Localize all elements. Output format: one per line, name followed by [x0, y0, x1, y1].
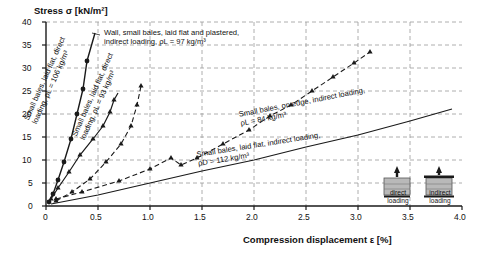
chart-figure: Stress σ [kN/m²] Compression displacemen…	[0, 0, 478, 277]
x-tick-0: 0	[43, 212, 48, 222]
x-tick-3-0: 3.0	[350, 212, 362, 222]
y-tick-40: 40	[22, 17, 31, 27]
x-tick-3-5: 3.5	[402, 212, 414, 222]
y-tick-5: 5	[28, 178, 33, 188]
legend-direct-line2: loading	[380, 197, 416, 205]
x-tick-4-0: 4.0	[454, 212, 466, 222]
legend-direct-line1: direct	[380, 189, 416, 197]
y-tick-0: 0	[28, 201, 33, 211]
x-tick-2-0: 2.0	[246, 212, 258, 222]
y-tick-15: 15	[22, 132, 31, 142]
x-tick-1-5: 1.5	[194, 212, 206, 222]
legend-indirect-line1: indirect	[422, 189, 458, 197]
legend-indirect-line2: loading	[422, 197, 458, 205]
y-tick-25: 25	[22, 86, 31, 96]
legend-pictogram: direct loading indirect loading	[378, 166, 462, 204]
x-tick-0-5: 0.5	[90, 212, 102, 222]
legend-caption-direct: direct loading	[380, 189, 416, 204]
x-tick-1-0: 1.0	[142, 212, 154, 222]
x-tick-2-5: 2.5	[298, 212, 310, 222]
y-tick-30: 30	[22, 63, 31, 73]
legend-caption-indirect: indirect loading	[422, 189, 458, 204]
y-tick-35: 35	[22, 40, 31, 50]
y-tick-10: 10	[22, 155, 31, 165]
